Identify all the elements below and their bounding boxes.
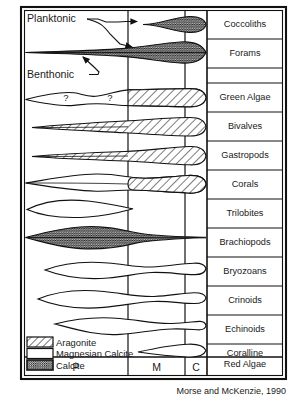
green-algae-question-1: ? — [63, 92, 68, 103]
mineralogy-time-chart: ? ? Planktonic — [0, 0, 307, 410]
benthonic-label: Benthonic — [27, 68, 75, 80]
row-label-echinoids: Echinoids — [225, 324, 265, 334]
row-label-corals: Corals — [232, 179, 259, 189]
figure-citation: Morse and McKenzie, 1990 — [176, 386, 286, 396]
chart-canvas: ? ? Planktonic — [0, 0, 307, 410]
legend-swatch-magnesian-calcite — [27, 349, 53, 359]
legend-label-calcite: Calcite — [56, 360, 85, 371]
row-label-crinoids: Crinoids — [228, 295, 262, 305]
row-label-gastropods: Gastropods — [221, 150, 269, 160]
row-label-coralline-red-algae-line2: Red Algae — [224, 359, 266, 369]
legend-label-aragonite: Aragonite — [56, 337, 96, 348]
row-label-coralline-red-algae-line1: Coralline — [227, 348, 263, 358]
row-label-forams: Forams — [229, 48, 261, 58]
green-algae-question-2: ? — [107, 92, 112, 103]
row-label-green-algae: Green Algae — [219, 92, 270, 102]
planktonic-label: Planktonic — [27, 12, 77, 24]
legend-label-magnesian-calcite: Magnesian Calcite — [56, 348, 133, 359]
era-label-C: C — [192, 361, 200, 373]
legend-swatch-aragonite — [27, 337, 53, 347]
era-label-M: M — [152, 361, 161, 373]
legend-swatch-calcite — [27, 360, 53, 370]
row-label-trilobites: Trilobites — [227, 208, 264, 218]
row-label-brachiopods: Brachiopods — [219, 237, 270, 247]
row-label-bivalves: Bivalves — [228, 121, 263, 131]
row-label-coccoliths: Coccoliths — [224, 19, 267, 29]
row-label-bryozoans: Bryozoans — [223, 266, 267, 276]
